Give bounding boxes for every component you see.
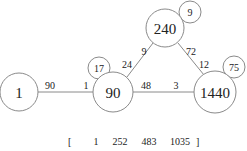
- node-1440-label: 1440: [200, 85, 230, 101]
- edge-90-240-label-b: 9: [142, 46, 147, 57]
- edge-1-90-label-b: 1: [84, 80, 89, 91]
- vector-open-bracket: [: [68, 136, 71, 147]
- vector-value-1: 252: [113, 136, 128, 147]
- node-90-label: 90: [106, 85, 121, 101]
- edge-90-1440-label-a: 48: [141, 80, 151, 91]
- self-loop-75-label: 75: [229, 62, 239, 73]
- edge-240-1440-label-a: 72: [186, 46, 196, 57]
- graph-diagram: 1 90 240 1440 17 9 75 90 1 24 9 72 12 48…: [0, 0, 247, 151]
- self-loop-17-label: 17: [94, 63, 104, 74]
- edge-1-90-label-a: 90: [45, 80, 55, 91]
- vector-close-bracket: ]: [196, 136, 199, 147]
- vector-value-2: 483: [142, 136, 157, 147]
- self-loop-9-label: 9: [188, 7, 193, 18]
- node-240-label: 240: [154, 21, 177, 37]
- edge-240-1440-label-b: 12: [199, 59, 209, 70]
- vector-value-0: 1: [94, 136, 99, 147]
- vector-value-3: 1035: [170, 136, 190, 147]
- edge-90-1440-label-b: 3: [174, 80, 179, 91]
- edge-90-240-label-a: 24: [122, 59, 132, 70]
- node-1-label: 1: [15, 85, 23, 101]
